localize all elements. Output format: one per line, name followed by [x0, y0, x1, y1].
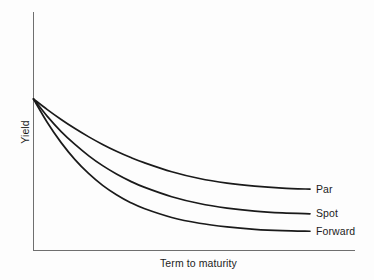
curve-spot: [34, 99, 311, 214]
yield-curve-chart: Par Spot Forward Term to maturity Yield: [0, 0, 374, 280]
x-axis-label: Term to maturity: [160, 257, 237, 269]
series-label-spot: Spot: [316, 207, 338, 219]
series-label-par: Par: [316, 183, 333, 195]
chart-canvas: [0, 0, 374, 280]
y-axis-label: Yield: [19, 109, 31, 155]
series-label-forward: Forward: [316, 225, 355, 237]
